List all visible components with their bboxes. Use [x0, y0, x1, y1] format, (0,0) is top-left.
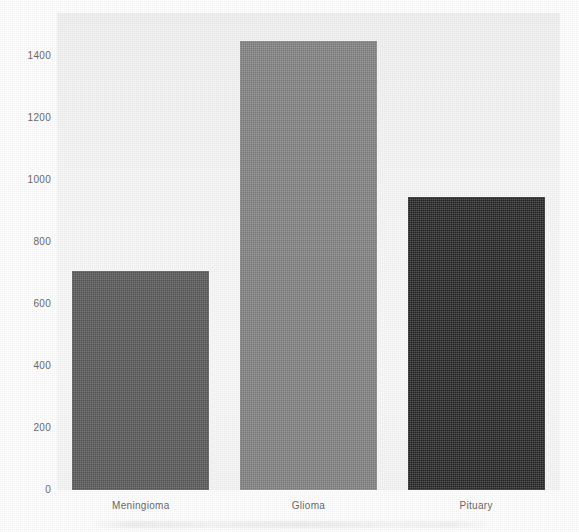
x-tick-label-pituary: Pituary: [386, 500, 566, 511]
y-tick-label-400: 400: [5, 361, 51, 371]
plot-area: 7081450945: [57, 13, 560, 490]
x-tick-label-meningioma: Meningioma: [51, 500, 231, 511]
y-tick-label-600: 600: [5, 299, 51, 309]
bar-meningioma: 708: [72, 271, 209, 490]
y-tick-label-1200: 1200: [5, 113, 51, 123]
y-tick-label-0: 0: [5, 485, 51, 495]
y-tick-label-800: 800: [5, 237, 51, 247]
y-tick-label-1000: 1000: [5, 175, 51, 185]
x-tick-label-glioma: Glioma: [219, 500, 399, 511]
y-tick-label-1400: 1400: [5, 51, 51, 61]
bar-chart-figure: 7081450945 1400120010008006004002000 Men…: [0, 0, 579, 532]
y-tick-label-200: 200: [5, 423, 51, 433]
caption-smudge-artifact: [92, 521, 492, 528]
bar-pituary: 945: [408, 197, 545, 490]
bar-glioma: 1450: [240, 41, 377, 491]
y-axis: 1400120010008006004002000: [0, 0, 51, 532]
